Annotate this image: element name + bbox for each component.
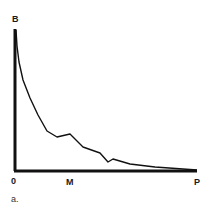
- x-tick-m: M: [66, 178, 74, 187]
- panel-label: a.: [11, 195, 19, 204]
- x-tick-p: P: [194, 178, 200, 187]
- y-axis-label: B: [12, 15, 19, 24]
- chart-canvas: [0, 0, 211, 210]
- data-curve: [16, 30, 197, 170]
- x-tick-origin: 0: [11, 177, 16, 186]
